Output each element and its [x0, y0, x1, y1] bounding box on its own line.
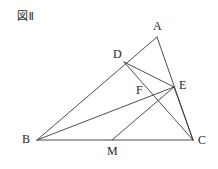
segment-ec — [174, 87, 193, 140]
vertex-label-m: M — [107, 145, 118, 157]
vertex-label-a: A — [153, 20, 162, 32]
segment-dc — [124, 62, 193, 140]
segment-me — [112, 87, 174, 140]
segment-de — [124, 62, 174, 87]
vertex-label-b: B — [22, 133, 30, 145]
vertex-label-d: D — [113, 48, 122, 60]
vertex-label-f: F — [136, 84, 143, 96]
segment-be — [37, 87, 174, 140]
vertex-label-e: E — [179, 79, 186, 91]
vertex-label-c: C — [198, 134, 206, 146]
geometry-figure: 図Ⅱ ABCDEFM — [0, 0, 218, 169]
